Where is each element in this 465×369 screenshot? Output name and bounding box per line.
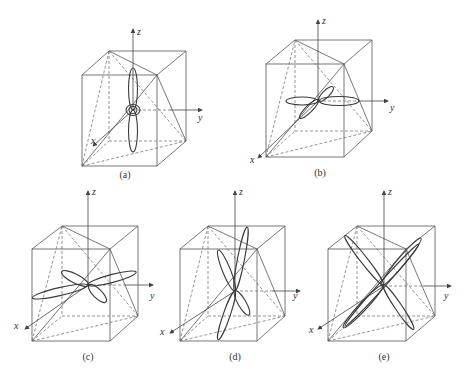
panel-e: [318, 191, 451, 341]
panel-b: [258, 20, 388, 158]
panel-c-y-label: y: [150, 291, 154, 301]
panel-b-z-label: z: [322, 16, 326, 26]
panel-d-x-label: x: [160, 327, 164, 337]
panel-e-x-label: x: [309, 325, 313, 335]
panel-c-caption: (c): [82, 352, 93, 362]
panel-a-caption: (a): [119, 170, 130, 180]
panel-d-caption: (d): [229, 352, 241, 362]
panel-a-x-label: x: [91, 136, 95, 146]
panel-d: [170, 191, 300, 341]
panel-c-z-label: z: [92, 187, 96, 197]
panel-d-z-label: z: [239, 187, 243, 197]
panel-e-caption: (e): [378, 352, 389, 362]
panel-b-caption: (b): [314, 168, 326, 178]
figure-drawing: [0, 0, 465, 369]
figure-canvas: z y x (a) z y x (b) z y x (c) z y x (d) …: [0, 0, 465, 369]
panel-d-y-label: y: [293, 291, 297, 301]
panel-a-z-label: z: [137, 27, 141, 37]
panel-b-y-label: y: [390, 103, 394, 113]
panel-a: [82, 29, 202, 166]
panel-e-y-label: y: [444, 291, 448, 301]
panel-b-x-label: x: [250, 155, 254, 165]
panel-c-x-label: x: [14, 321, 18, 331]
x-axis: [93, 110, 133, 146]
panel-e-z-label: z: [388, 187, 392, 197]
panel-c: [25, 191, 153, 341]
panel-a-y-label: y: [198, 113, 202, 123]
